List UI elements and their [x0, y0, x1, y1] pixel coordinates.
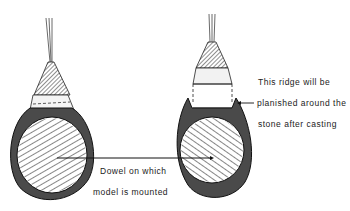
dowel-label-line2: model is mounted: [93, 187, 168, 197]
right-ring: [177, 14, 251, 197]
dowel-label-line1: Dowel on which: [100, 166, 167, 176]
ridge-label-line3: stone after casting: [258, 119, 337, 129]
ridge-label-line1: This ridge will be: [258, 77, 330, 87]
ridge-label-line2: planished around the: [257, 98, 346, 108]
left-ring: [11, 18, 94, 200]
